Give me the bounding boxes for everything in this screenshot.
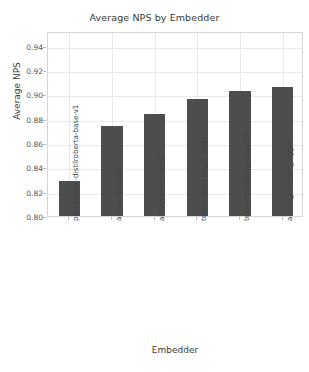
- plot-area: [47, 32, 303, 217]
- gridline-horizontal: [48, 194, 302, 195]
- x-tick-label-0: paraphrase-distilroberta-base-v1: [71, 105, 80, 221]
- x-tick-mark: [111, 217, 112, 220]
- x-tick-mark: [239, 217, 240, 220]
- y-tick-mark: [43, 71, 46, 72]
- y-tick-mark: [43, 168, 46, 169]
- y-tick-mark: [43, 217, 46, 218]
- y-tick-label: 0.86: [3, 139, 43, 148]
- y-tick-label: 0.94: [3, 42, 43, 51]
- y-tick-label: 0.84: [3, 164, 43, 173]
- x-tick-mark: [282, 217, 283, 220]
- y-tick-mark: [43, 144, 46, 145]
- y-tick-label: 0.82: [3, 188, 43, 197]
- y-tick-mark: [43, 120, 46, 121]
- x-tick-label-3: text-embedding-3-large: [199, 137, 208, 221]
- y-tick-mark: [43, 193, 46, 194]
- chart-title: Average NPS by Embedder: [0, 12, 309, 23]
- x-tick-label-1: anime_encoder: [114, 166, 123, 221]
- x-tick-label-4: text-embedding-ada-002: [242, 132, 251, 221]
- chart-figure: Average NPS by Embedder Average NPS 0.80…: [0, 0, 309, 372]
- gridline-horizontal: [48, 48, 302, 49]
- y-tick-label: 0.90: [3, 91, 43, 100]
- gridline-horizontal: [48, 145, 302, 146]
- x-tick-label-5: anime_encoder_bigger: [285, 140, 294, 221]
- y-tick-mark: [43, 95, 46, 96]
- y-tick-mark: [43, 47, 46, 48]
- x-tick-label-2: all-mpnet-base-v2: [157, 157, 166, 221]
- x-tick-mark: [154, 217, 155, 220]
- y-tick-label: 0.88: [3, 115, 43, 124]
- x-tick-mark: [196, 217, 197, 220]
- x-axis-label: Embedder: [47, 345, 303, 355]
- gridline-horizontal: [48, 72, 302, 73]
- gridline-horizontal: [48, 96, 302, 97]
- x-tick-mark: [68, 217, 69, 220]
- y-axis-tick-group: 0.800.820.840.860.880.900.920.94: [0, 32, 43, 217]
- gridline-horizontal: [48, 169, 302, 170]
- y-tick-label: 0.92: [3, 66, 43, 75]
- gridline-horizontal: [48, 121, 302, 122]
- y-tick-label: 0.80: [3, 213, 43, 222]
